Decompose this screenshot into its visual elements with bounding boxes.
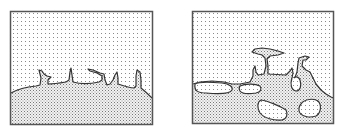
left-panel: [11, 12, 153, 125]
bubble-right-tongue: [291, 77, 301, 91]
bubble-middle: [239, 84, 261, 93]
bubble-left: [195, 82, 232, 93]
figure-canvas: [0, 0, 345, 134]
hole-lower-right: [299, 99, 321, 117]
right-panel: [193, 12, 334, 124]
